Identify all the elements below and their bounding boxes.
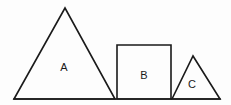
- triangle-a: [14, 8, 115, 99]
- shape-label-b: B: [140, 69, 147, 81]
- shape-label-a: A: [60, 61, 68, 73]
- shape-label-c: C: [188, 78, 196, 90]
- shapes-canvas: A B C: [0, 0, 231, 105]
- triangle-c: [172, 56, 220, 99]
- shapes-diagram: A B C: [0, 0, 231, 105]
